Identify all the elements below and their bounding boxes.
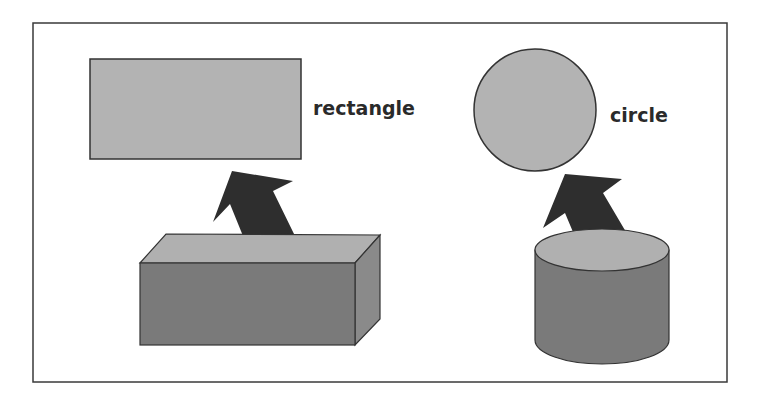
- prism-front-face: [140, 263, 355, 345]
- rectangular-prism: [140, 234, 380, 345]
- shape-projection-diagram: rectangle circle: [0, 0, 763, 406]
- circle-label: circle: [610, 104, 668, 126]
- rectangle-label: rectangle: [313, 97, 415, 119]
- flat-circle: [474, 49, 596, 171]
- cylinder: [535, 229, 669, 364]
- prism-top-face: [140, 234, 380, 263]
- flat-rectangle: [90, 59, 301, 159]
- cylinder-top-face: [535, 229, 669, 271]
